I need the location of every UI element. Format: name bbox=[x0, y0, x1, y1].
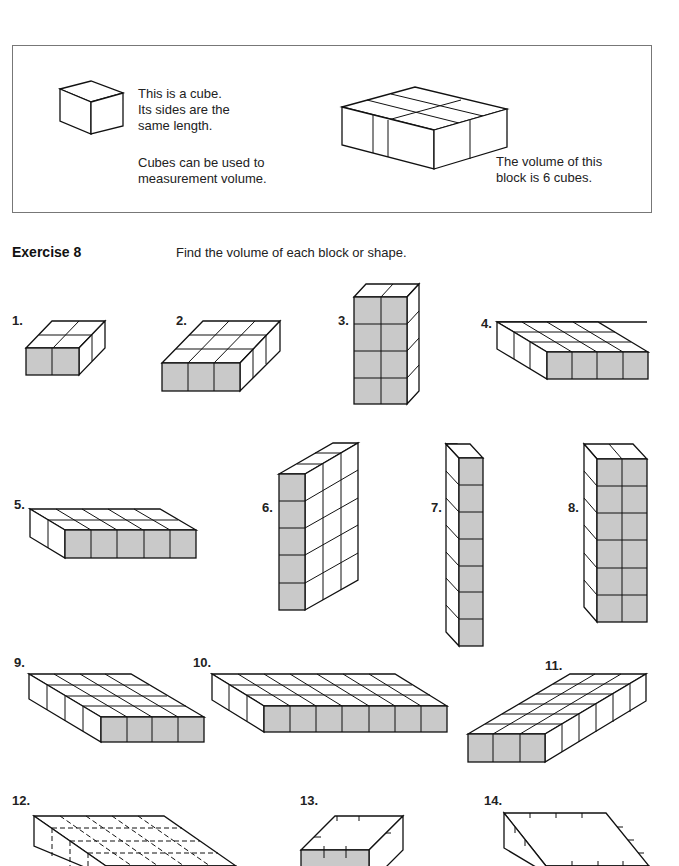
cube-description: This is a cube. Its sides are the same l… bbox=[138, 86, 230, 134]
problem-1-block bbox=[26, 321, 106, 377]
problem-7-block bbox=[446, 444, 486, 648]
exercise-title: Exercise 8 bbox=[12, 244, 81, 260]
six-cube-block-illustration bbox=[342, 85, 512, 170]
problem-5-block bbox=[30, 509, 198, 561]
problem-label-6: 6. bbox=[262, 500, 273, 515]
problem-13-block bbox=[301, 816, 407, 866]
problem-label-7: 7. bbox=[431, 500, 442, 515]
problem-label-14: 14. bbox=[484, 793, 502, 808]
problem-11-block bbox=[468, 674, 648, 766]
problem-4-block bbox=[497, 322, 651, 380]
cube-illustration bbox=[58, 80, 128, 140]
cube-usage-text: Cubes can be used to measurement volume. bbox=[138, 155, 267, 187]
problem-8-block bbox=[584, 444, 652, 624]
problem-label-4: 4. bbox=[481, 316, 492, 331]
problem-9-block bbox=[29, 674, 207, 744]
block-volume-text: The volume of this block is 6 cubes. bbox=[496, 154, 602, 186]
problem-label-10: 10. bbox=[193, 655, 211, 670]
problem-10-block bbox=[212, 674, 450, 734]
problem-label-1: 1. bbox=[12, 313, 23, 328]
problem-label-12: 12. bbox=[12, 793, 30, 808]
problem-12-block bbox=[34, 816, 239, 866]
problem-14-block bbox=[504, 813, 654, 863]
problem-label-5: 5. bbox=[14, 497, 25, 512]
problem-label-13: 13. bbox=[300, 793, 318, 808]
problem-label-9: 9. bbox=[14, 655, 25, 670]
problem-2-block bbox=[162, 321, 282, 393]
problem-label-11: 11. bbox=[545, 658, 562, 673]
problem-label-3: 3. bbox=[338, 313, 349, 328]
problem-label-8: 8. bbox=[568, 500, 579, 515]
exercise-instruction: Find the volume of each block or shape. bbox=[176, 245, 407, 261]
problem-3-block bbox=[354, 284, 422, 406]
problem-6-block bbox=[279, 443, 361, 613]
